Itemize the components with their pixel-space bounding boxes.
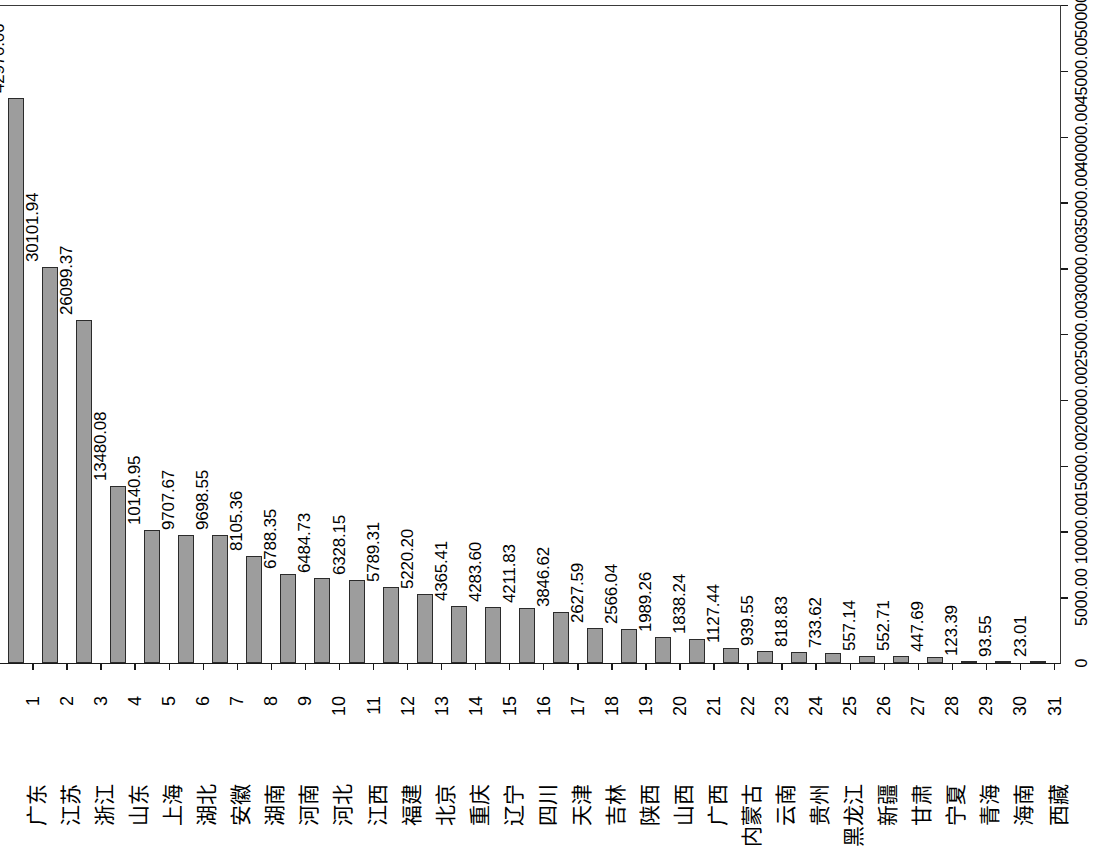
bar-value-label: 26099.37 <box>58 245 75 314</box>
bar-group[interactable]: 1989.26 <box>655 5 671 663</box>
y-axis: 05000.0010000.0015000.0020000.0025000.00… <box>1061 5 1099 664</box>
x-category-label: 浙江 <box>94 784 115 826</box>
y-tick <box>1061 202 1068 203</box>
bar-group[interactable]: 4283.60 <box>485 5 501 663</box>
bar[interactable] <box>383 587 399 663</box>
bar[interactable] <box>995 661 1011 663</box>
bar[interactable] <box>825 653 841 663</box>
bar[interactable] <box>42 267 58 663</box>
bar-group[interactable]: 10140.95 <box>144 5 160 663</box>
bar-group[interactable]: 6788.35 <box>280 5 296 663</box>
bar[interactable] <box>8 98 24 663</box>
bar[interactable] <box>519 608 535 663</box>
bar[interactable] <box>621 629 637 663</box>
bar[interactable] <box>485 607 501 663</box>
bar-group[interactable]: 5220.20 <box>417 5 433 663</box>
x-category-label: 湖北 <box>196 784 217 826</box>
x-category-label: 新疆 <box>877 784 898 826</box>
bar-value-label: 939.55 <box>739 595 756 646</box>
bar-value-label: 9698.55 <box>194 470 211 530</box>
bar-group[interactable]: 818.83 <box>791 5 807 663</box>
bar[interactable] <box>417 594 433 663</box>
bar-value-label: 557.14 <box>841 600 858 651</box>
bar[interactable] <box>961 661 977 663</box>
x-category-label: 陕西 <box>639 784 660 826</box>
x-category-label: 河北 <box>332 784 353 826</box>
bar-group[interactable]: 9707.67 <box>178 5 194 663</box>
y-tick-label: 35000.00 <box>1074 169 1090 236</box>
bar[interactable] <box>553 612 569 663</box>
bar-group[interactable]: 5789.31 <box>383 5 399 663</box>
x-axis-index-labels: 1234567891011121314151617181920212223242… <box>0 668 1061 700</box>
x-category-label: 江西 <box>367 784 388 826</box>
bar-value-label: 9707.67 <box>160 470 177 530</box>
bar-group[interactable]: 8105.36 <box>246 5 262 663</box>
x-index-label: 6 <box>194 696 212 706</box>
bar-group[interactable]: 447.69 <box>927 5 943 663</box>
x-category-label: 北京 <box>435 784 456 826</box>
x-category-label: 山东 <box>128 784 149 826</box>
bar-group[interactable]: 30101.94 <box>42 5 58 663</box>
bar-group[interactable]: 1127.44 <box>723 5 739 663</box>
x-category-label: 重庆 <box>469 784 490 826</box>
x-index-label: 2 <box>58 696 76 706</box>
bar-value-label: 6788.35 <box>262 509 279 569</box>
bar-group[interactable]: 6484.73 <box>314 5 330 663</box>
bar[interactable] <box>110 486 126 663</box>
bar-group[interactable]: 733.62 <box>825 5 841 663</box>
x-category-label: 内蒙古 <box>741 784 762 847</box>
bar-group[interactable]: 2627.59 <box>587 5 603 663</box>
bar[interactable] <box>655 637 671 663</box>
bar[interactable] <box>791 652 807 663</box>
bar-group[interactable]: 4211.83 <box>519 5 535 663</box>
bar[interactable] <box>451 606 467 663</box>
bar-group[interactable]: 939.55 <box>757 5 773 663</box>
bar-group[interactable]: 557.14 <box>859 5 875 663</box>
x-index-label: 1 <box>24 696 42 706</box>
bar-group[interactable]: 9698.55 <box>212 5 228 663</box>
x-category-label: 云南 <box>775 784 796 826</box>
bar[interactable] <box>76 320 92 663</box>
bar-group[interactable]: 123.39 <box>961 5 977 663</box>
bar[interactable] <box>280 574 296 663</box>
bar[interactable] <box>212 535 228 663</box>
bar-value-label: 93.55 <box>977 615 994 657</box>
bar[interactable] <box>927 657 943 663</box>
bar-value-label: 6484.73 <box>296 513 313 573</box>
bar-value-label: 10140.95 <box>126 455 143 524</box>
x-category-label: 天津 <box>571 784 592 826</box>
bar-group[interactable]: 4365.41 <box>451 5 467 663</box>
bar[interactable] <box>246 556 262 663</box>
bar-group[interactable]: 42970.06 <box>8 5 24 663</box>
bar-group[interactable]: 23.01 <box>1030 5 1046 663</box>
bar-group[interactable]: 552.71 <box>893 5 909 663</box>
y-tick-label: 50000.00 <box>1074 0 1090 38</box>
bar-group[interactable]: 93.55 <box>995 5 1011 663</box>
bar[interactable] <box>587 628 603 663</box>
y-tick-label: 0 <box>1074 659 1090 668</box>
bar[interactable] <box>178 535 194 663</box>
x-category-label: 辽宁 <box>503 784 524 826</box>
bar-group[interactable]: 1838.24 <box>689 5 705 663</box>
bar[interactable] <box>1030 661 1046 663</box>
x-category-label: 四川 <box>537 784 558 826</box>
x-category-label: 海南 <box>1013 784 1034 826</box>
x-category-label: 吉林 <box>605 784 626 826</box>
bar-group[interactable]: 13480.08 <box>110 5 126 663</box>
bar-group[interactable]: 26099.37 <box>76 5 92 663</box>
bar[interactable] <box>859 656 875 663</box>
bar-group[interactable]: 6328.15 <box>349 5 365 663</box>
bar[interactable] <box>893 656 909 663</box>
bar[interactable] <box>723 648 739 663</box>
bar-value-label: 8105.36 <box>228 491 245 551</box>
bar[interactable] <box>314 578 330 663</box>
bar[interactable] <box>689 639 705 663</box>
bar-value-label: 3846.62 <box>535 547 552 607</box>
bar-group[interactable]: 2566.04 <box>621 5 637 663</box>
bar[interactable] <box>144 530 160 663</box>
bar[interactable] <box>757 651 773 663</box>
bar-group[interactable]: 3846.62 <box>553 5 569 663</box>
bar[interactable] <box>349 580 365 663</box>
x-category-label: 福建 <box>401 784 422 826</box>
